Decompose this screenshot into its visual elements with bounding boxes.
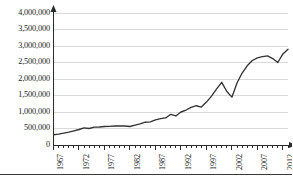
y-axis-arrowhead: [51, 5, 57, 12]
y-axis-tick-label: 2,500,000: [18, 58, 50, 66]
line-chart: 0500,0001,000,0001,500,0002,000,0002,500…: [0, 0, 292, 177]
y-axis-tick-label: 1,000,000: [18, 108, 50, 116]
x-axis-tick-label: 2012: [287, 154, 293, 170]
x-axis-tick-label: 1967: [57, 154, 65, 170]
bottom-divider: [0, 174, 292, 175]
y-axis-tick-label: 1,500,000: [18, 91, 50, 99]
x-axis-arrowhead: [289, 142, 292, 148]
x-axis-tick-label: 1972: [83, 154, 91, 170]
x-axis-tick-label: 2007: [261, 154, 269, 170]
y-axis-tick-label: 4,000,000: [18, 9, 50, 17]
y-axis-tick-label: 3,000,000: [18, 42, 50, 50]
y-axis-tick-label: 3,500,000: [18, 25, 50, 33]
gridlines: [54, 13, 289, 129]
y-axis-tick-label: 500,000: [24, 124, 50, 132]
y-axis: [51, 5, 57, 145]
x-axis-tick-label: 1982: [134, 154, 142, 170]
x-axis-tick-label: 1992: [185, 154, 193, 170]
x-axis-tick-label: 1997: [210, 154, 218, 170]
x-axis-tick-label: 2002: [236, 154, 244, 170]
y-axis-tick-label: 2,000,000: [18, 75, 50, 83]
x-axis-tick-label: 1977: [108, 154, 116, 170]
x-axis-tick-marks: [54, 145, 289, 150]
x-axis-tick-label: 1987: [159, 154, 167, 170]
y-axis-tick-label: 0: [46, 141, 50, 149]
